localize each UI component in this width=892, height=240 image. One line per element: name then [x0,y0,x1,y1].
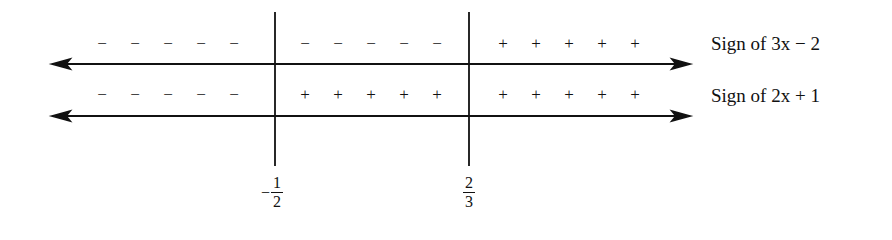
row-label-2x-plus-1: Sign of 2x + 1 [711,86,820,105]
minus-sign: − [196,35,206,52]
minus-sign: − [196,86,206,103]
plus-sign: + [630,35,640,52]
plus-sign: + [564,86,574,103]
plus-sign: + [399,86,409,103]
plus-sign: + [531,86,541,103]
minus-sign: − [163,35,173,52]
plus-sign: + [432,86,442,103]
plus-sign: + [564,35,574,52]
plus-sign: + [498,35,508,52]
minus-sign: − [432,35,442,52]
minus-sign: − [97,86,107,103]
plus-sign: + [630,86,640,103]
critical-point-two-thirds: 2 3 [463,174,475,211]
minus-sign: − [163,86,173,103]
minus-sign: − [229,86,239,103]
minus-sign: − [366,35,376,52]
plus-sign: + [531,35,541,52]
plus-sign: + [498,86,508,103]
minus-sign: − [399,35,409,52]
plus-sign: + [333,86,343,103]
minus-sign: − [229,35,239,52]
plus-sign: + [366,86,376,103]
plus-sign: + [300,86,310,103]
minus-sign: − [130,86,140,103]
minus-sign: − [130,35,140,52]
minus-sign: − [300,35,310,52]
plus-sign: + [597,86,607,103]
minus-sign: − [97,35,107,52]
critical-point-neg-half: − 1 2 [261,174,283,211]
minus-sign: − [333,35,343,52]
row-label-3x-minus-2: Sign of 3x − 2 [711,34,820,53]
plus-sign: + [597,35,607,52]
